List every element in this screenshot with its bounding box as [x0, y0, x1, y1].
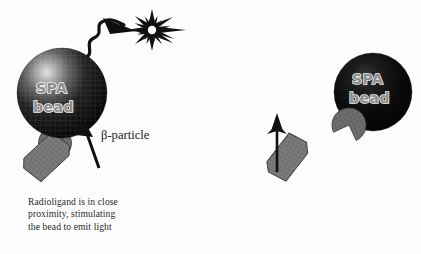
unbound-radioligand-panel: β-particle Unbound radioligand does not … [210, 0, 421, 254]
beta-particle-label-bound: β-particle [101, 128, 149, 143]
bound-radioligand-panel: β-particle Radioligand is in close proxi… [0, 0, 210, 254]
caption-bound: Radioligand is in close proximity, stimu… [28, 196, 178, 233]
figure-canvas: SPA bead SPA bead [0, 0, 421, 254]
